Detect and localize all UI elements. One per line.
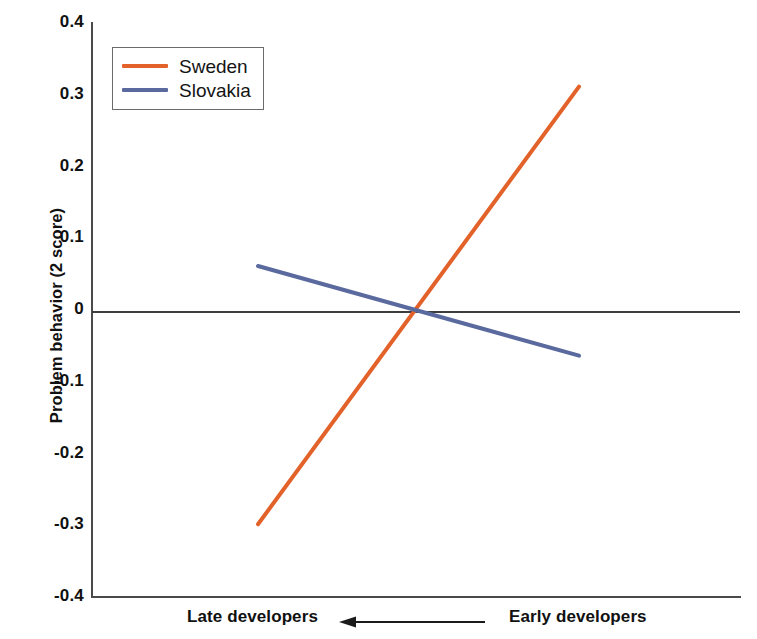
y-tick-label: -0.2: [0, 443, 84, 463]
legend-item-slovakia: Slovakia: [122, 78, 251, 102]
chart-figure: Problem behavior (2 score) 0.40.30.20.10…: [0, 0, 757, 639]
y-tick-label: 0.1: [0, 227, 84, 247]
legend-color-swatch-sweden: [122, 64, 168, 69]
y-axis-line: [91, 22, 93, 598]
left-arrow-icon: [337, 615, 487, 629]
x-axis-label-late-developers: Late developers: [187, 607, 318, 627]
y-tick-label: -0.3: [0, 514, 84, 534]
y-tick-label: 0.2: [0, 156, 84, 176]
x-axis-annotation-row: Late developers Early developers: [91, 601, 741, 635]
y-tick-label: 0: [0, 299, 84, 319]
y-tick-label: -0.4: [0, 586, 84, 606]
x-axis-line: [91, 596, 741, 598]
series-line-sweden: [258, 87, 579, 525]
zero-reference-line: [92, 311, 740, 313]
x-axis-label-early-developers: Early developers: [509, 607, 647, 627]
legend-label-sweden: Sweden: [179, 57, 248, 76]
y-tick-label: 0.3: [0, 84, 84, 104]
y-tick-label: -0.1: [0, 371, 84, 391]
legend-item-sweden: Sweden: [122, 54, 251, 78]
chart-legend: Sweden Slovakia: [112, 47, 264, 110]
y-tick-label: 0.4: [0, 12, 84, 32]
legend-label-slovakia: Slovakia: [179, 81, 251, 100]
legend-color-swatch-slovakia: [122, 88, 168, 93]
